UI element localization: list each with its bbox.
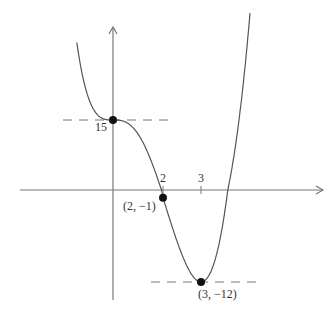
x-tick-label-2: 2 [160,171,166,185]
point-label-2: (3, −12) [198,287,237,301]
point-2 [197,278,205,286]
chart: 2315(2, −1)(3, −12) [0,0,336,317]
point-1 [159,194,167,202]
x-tick-label-3: 3 [198,171,204,185]
point-label-1: (2, −1) [123,199,156,213]
chart-svg: 2315(2, −1)(3, −12) [0,0,336,317]
point-0 [109,116,117,124]
curve-line [77,13,250,282]
point-label-0: 15 [95,120,107,134]
